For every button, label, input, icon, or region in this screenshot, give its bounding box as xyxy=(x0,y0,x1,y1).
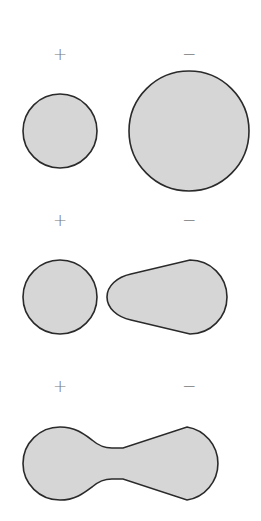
merged-dumbbell xyxy=(23,427,218,500)
plus-sign: + xyxy=(50,210,70,230)
row-1 xyxy=(23,71,249,191)
positive-sphere xyxy=(23,260,97,334)
charge-diagram xyxy=(0,0,261,521)
minus-sign: − xyxy=(179,376,199,396)
negative-teardrop xyxy=(107,260,227,334)
row-3 xyxy=(23,427,218,500)
row-2 xyxy=(23,260,227,334)
positive-sphere xyxy=(23,94,97,168)
minus-sign: − xyxy=(179,44,199,64)
plus-sign: + xyxy=(50,44,70,64)
minus-sign: − xyxy=(179,210,199,230)
negative-sphere xyxy=(129,71,249,191)
plus-sign: + xyxy=(50,376,70,396)
